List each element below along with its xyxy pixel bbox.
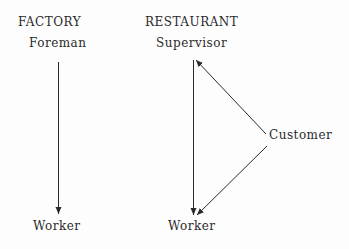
diagram-arrows [0,0,349,249]
customer-to-worker-arrow [197,146,267,215]
customer-to-supervisor-arrow [196,60,266,134]
